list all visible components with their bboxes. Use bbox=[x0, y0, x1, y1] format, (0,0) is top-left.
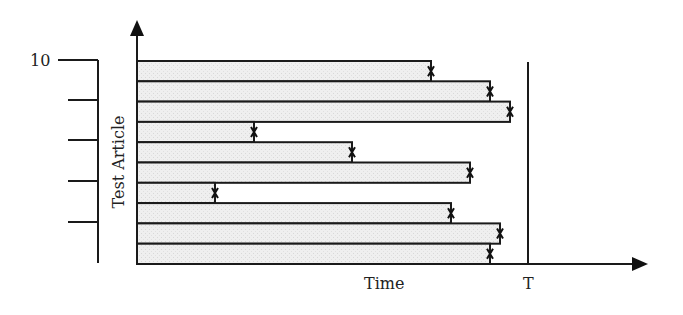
bar-test-article-2 bbox=[137, 81, 490, 101]
y-scale-label: 10 bbox=[30, 51, 50, 70]
t-marker-label: T bbox=[523, 274, 534, 293]
bar-test-article-6 bbox=[137, 163, 470, 183]
bar-test-article-8 bbox=[137, 203, 451, 223]
bar-test-article-5 bbox=[137, 142, 352, 162]
bar-test-article-3 bbox=[137, 102, 510, 122]
bar-test-article-4 bbox=[137, 122, 254, 142]
bar-test-article-1 bbox=[137, 61, 431, 81]
y-scale bbox=[58, 60, 98, 263]
x-axis-label: Time bbox=[364, 274, 404, 293]
test-article-chart: 10 Test Article Time T bbox=[0, 0, 683, 315]
y-axis-arrow-icon bbox=[130, 20, 144, 36]
bar-test-article-9 bbox=[137, 223, 500, 243]
bar-test-article-7 bbox=[137, 183, 215, 203]
y-axis-label: Test Article bbox=[109, 116, 128, 209]
bars bbox=[137, 61, 513, 264]
x-axis-arrow-icon bbox=[632, 257, 648, 271]
bar-test-article-10 bbox=[137, 244, 490, 264]
